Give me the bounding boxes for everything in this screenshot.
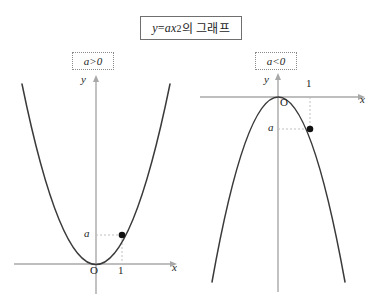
right-y-tick-label: a xyxy=(268,121,274,133)
right-x-axis-label: x xyxy=(360,93,365,105)
graph-canvas xyxy=(0,0,381,302)
right-y-axis-arrow xyxy=(275,73,281,80)
figure-title: y=ax2의 그래프 xyxy=(140,16,242,40)
left-origin-label: O xyxy=(90,264,98,276)
figure-root: y=ax2의 그래프 a>0 a<0 xyxy=(0,0,381,302)
right-y-axis-label: y xyxy=(264,73,269,85)
title-suffix: 의 그래프 xyxy=(182,19,230,37)
condition-box-right: a<0 xyxy=(255,52,297,70)
left-marked-point xyxy=(119,232,126,239)
left-x-tick-label: 1 xyxy=(118,264,124,276)
left-y-axis-label: y xyxy=(81,73,86,85)
graph-left-upward-parabola xyxy=(14,75,177,294)
condition-label-right: a<0 xyxy=(267,55,285,67)
right-origin-label: O xyxy=(280,96,288,108)
right-x-tick-label: 1 xyxy=(306,77,312,89)
right-marked-point xyxy=(307,126,314,133)
left-parabola-curve xyxy=(22,84,170,265)
left-y-axis-arrow xyxy=(93,75,99,82)
condition-label-left: a>0 xyxy=(84,55,102,67)
right-parabola-curve xyxy=(212,97,345,282)
title-formula-eq: = xyxy=(158,21,165,36)
title-formula-coeff: ax xyxy=(165,21,177,36)
left-x-axis-label: x xyxy=(172,261,177,273)
condition-box-left: a>0 xyxy=(72,52,114,70)
graphs-svg xyxy=(0,0,381,302)
left-y-tick-label: a xyxy=(84,227,90,239)
